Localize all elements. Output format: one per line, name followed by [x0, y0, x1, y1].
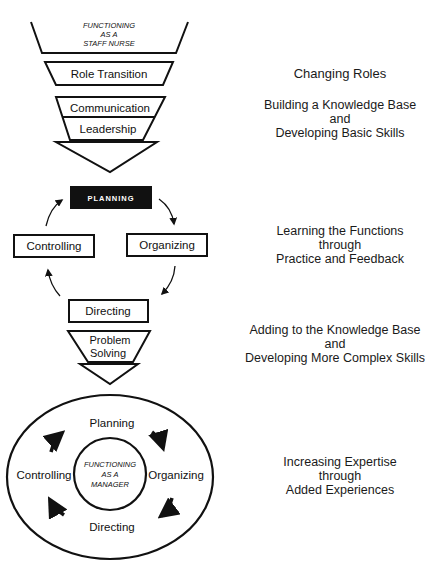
role-transition-label: Role Transition: [71, 68, 148, 80]
problem-solving-block: Problem Solving: [68, 331, 150, 362]
directing-label: Directing: [85, 305, 130, 317]
manager-controlling-label: Controlling: [17, 469, 72, 481]
description-line: through: [255, 238, 425, 252]
description-learning-functions: Learning the Functions through Practice …: [255, 224, 425, 266]
manager-center-line2: AS A: [101, 470, 119, 479]
description-line: Increasing Expertise: [255, 455, 425, 469]
down-arrow-1: [56, 142, 157, 172]
staff-nurse-line3: STAFF NURSE: [83, 39, 135, 48]
description-line: Adding to the Knowledge Base: [245, 323, 425, 337]
manager-organizing-label: Organizing: [148, 469, 204, 481]
description-line: Developing More Complex Skills: [245, 351, 425, 365]
description-adding-knowledge: Adding to the Knowledge Base and Develop…: [245, 323, 425, 365]
description-line: Developing Basic Skills: [255, 126, 425, 140]
staff-nurse-line1: FUNCTIONING: [83, 21, 135, 30]
cycle-arrow-planning-to-organizing-icon: [159, 199, 174, 224]
communication-label: Communication: [70, 102, 150, 114]
cycle-arrow-directing-to-controlling-icon: [48, 270, 60, 296]
staff-nurse-funnel: FUNCTIONING AS A STAFF NURSE: [31, 21, 188, 53]
manager-center-line1: FUNCTIONING: [84, 460, 136, 469]
description-line: through: [255, 469, 425, 483]
description-line: Changing Roles: [255, 67, 425, 81]
staff-nurse-line2: AS A: [100, 30, 118, 39]
cycle-arrow-controlling-to-planning-icon: [46, 200, 62, 226]
description-line: and: [255, 112, 425, 126]
description-line: Learning the Functions: [255, 224, 425, 238]
description-line: Building a Knowledge Base: [255, 98, 425, 112]
description-line: and: [245, 337, 425, 351]
manager-directing-label: Directing: [89, 521, 134, 533]
controlling-label: Controlling: [27, 240, 82, 252]
learning-cycle: PLANNING Controlling Organizing Directin…: [14, 186, 207, 322]
manager-cycle: FUNCTIONING AS A MANAGER Planning Organi…: [7, 395, 213, 559]
problem-solving-line2: Solving: [90, 347, 126, 359]
organizing-label: Organizing: [139, 239, 195, 251]
planning-label: PLANNING: [87, 194, 134, 203]
description-increasing-expertise: Increasing Expertise through Added Exper…: [255, 455, 425, 497]
problem-solving-line1: Problem: [90, 334, 131, 346]
description-building-knowledge: Building a Knowledge Base and Developing…: [255, 98, 425, 140]
description-changing-roles: Changing Roles: [255, 67, 425, 81]
description-line: Practice and Feedback: [255, 252, 425, 266]
leadership-label: Leadership: [80, 123, 137, 135]
communication-leadership-block: Communication Leadership: [56, 97, 165, 140]
manager-center-line3: MANAGER: [91, 480, 130, 489]
manager-planning-label: Planning: [90, 417, 135, 429]
cycle-arrow-organizing-to-directing-icon: [162, 266, 175, 294]
description-line: Added Experiences: [255, 483, 425, 497]
role-transition-block: Role Transition: [45, 62, 173, 85]
down-arrow-2: [80, 364, 138, 384]
